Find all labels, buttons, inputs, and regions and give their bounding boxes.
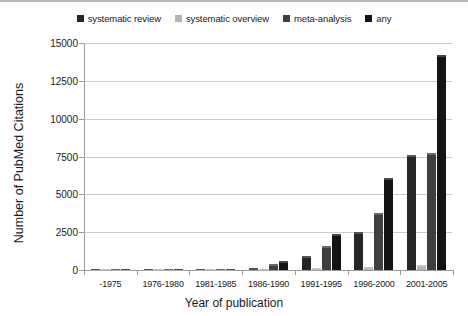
legend-swatch-icon (175, 15, 182, 22)
x-tick-label: 2001-2005 (400, 279, 453, 289)
bar-2[interactable] (164, 269, 173, 270)
x-tick-mark (242, 270, 243, 275)
bar-highlight (384, 178, 393, 180)
bar-highlight (407, 155, 416, 157)
bar-0[interactable] (91, 269, 100, 270)
x-tick-label: 1981-1985 (189, 279, 242, 289)
x-tick-mark (348, 270, 349, 275)
bar-0[interactable] (196, 269, 205, 270)
x-axis-tick-labels: -19751976-19801981-19851986-19901991-199… (84, 279, 453, 289)
bar-highlight (91, 269, 100, 271)
bar-3[interactable] (384, 178, 393, 270)
x-tick-mark (453, 270, 454, 275)
bar-3[interactable] (279, 261, 288, 270)
bar-3[interactable] (332, 234, 341, 270)
bar-2[interactable] (427, 153, 436, 270)
bar-highlight (279, 261, 288, 263)
bar-highlight (206, 269, 215, 271)
legend-swatch-icon (365, 15, 372, 22)
legend-label: systematic review (88, 14, 161, 24)
y-axis-title: Number of PubMed Citations (12, 48, 26, 278)
bar-1[interactable] (312, 268, 321, 270)
legend-item-1[interactable]: systematic overview (175, 14, 269, 24)
bar-highlight (374, 213, 383, 215)
legend-label: any (376, 14, 391, 24)
bar-0[interactable] (249, 268, 258, 270)
bar-highlight (259, 269, 268, 271)
bar-groups (84, 43, 453, 270)
bar-highlight (121, 269, 130, 271)
bar-2[interactable] (269, 264, 278, 270)
bar-highlight (154, 269, 163, 271)
bar-highlight (437, 55, 446, 57)
x-tick-mark (400, 270, 401, 275)
bar-highlight (174, 269, 183, 271)
bar-highlight (216, 269, 225, 271)
bar-highlight (364, 267, 373, 269)
bar-group (295, 43, 348, 270)
x-tick-label: 1976-1980 (137, 279, 190, 289)
x-tick-label: 1996-2000 (348, 279, 401, 289)
bar-1[interactable] (101, 269, 110, 270)
x-tick-label: 1991-1995 (295, 279, 348, 289)
legend-item-3[interactable]: any (365, 14, 391, 24)
bar-2[interactable] (322, 246, 331, 270)
bar-2[interactable] (216, 269, 225, 270)
bar-highlight (111, 269, 120, 271)
bar-3[interactable] (174, 269, 183, 270)
y-tick-label: 7500 (56, 151, 78, 162)
y-tick-label: 2500 (56, 227, 78, 238)
bar-3[interactable] (121, 269, 130, 270)
y-tick-label: 10000 (50, 113, 78, 124)
bar-group (348, 43, 401, 270)
bar-highlight (427, 153, 436, 155)
bar-1[interactable] (154, 269, 163, 270)
bar-1[interactable] (259, 269, 268, 270)
bar-1[interactable] (206, 269, 215, 270)
bar-0[interactable] (407, 155, 416, 270)
bar-highlight (302, 256, 311, 258)
x-axis-title: Year of publication (0, 296, 468, 310)
bar-highlight (332, 234, 341, 236)
bar-highlight (417, 265, 426, 267)
x-tick-mark (189, 270, 190, 275)
bar-3[interactable] (226, 269, 235, 270)
bar-0[interactable] (354, 232, 363, 270)
bar-highlight (249, 268, 258, 270)
legend-label: meta-analysis (294, 14, 351, 24)
bar-1[interactable] (417, 265, 426, 270)
bar-highlight (354, 232, 363, 234)
legend-swatch-icon (283, 15, 290, 22)
x-tick-label: 1986-1990 (242, 279, 295, 289)
bar-0[interactable] (302, 256, 311, 270)
bar-highlight (164, 269, 173, 271)
x-tick-mark (137, 270, 138, 275)
bar-highlight (226, 269, 235, 271)
bar-3[interactable] (437, 55, 446, 270)
y-tick-label: 15000 (50, 38, 78, 49)
x-axis-line (84, 270, 453, 271)
bar-group (189, 43, 242, 270)
legend-label: systematic overview (186, 14, 269, 24)
legend-item-0[interactable]: systematic review (77, 14, 161, 24)
y-tick-label: 12500 (50, 75, 78, 86)
bar-highlight (269, 264, 278, 266)
legend-item-2[interactable]: meta-analysis (283, 14, 351, 24)
bar-group (137, 43, 190, 270)
x-tick-mark (295, 270, 296, 275)
bar-0[interactable] (144, 269, 153, 270)
bar-group (84, 43, 137, 270)
bar-1[interactable] (364, 267, 373, 270)
bar-highlight (144, 269, 153, 271)
x-tick-label: -1975 (84, 279, 137, 289)
bar-group (242, 43, 295, 270)
bar-highlight (101, 269, 110, 271)
bar-2[interactable] (111, 269, 120, 270)
bar-highlight (322, 246, 331, 248)
bar-2[interactable] (374, 213, 383, 271)
bar-highlight (312, 268, 321, 270)
x-tick-mark (84, 270, 85, 275)
chart-container: systematic reviewsystematic overviewmeta… (0, 0, 468, 316)
y-tick-label: 0 (72, 265, 78, 276)
bar-highlight (196, 269, 205, 271)
